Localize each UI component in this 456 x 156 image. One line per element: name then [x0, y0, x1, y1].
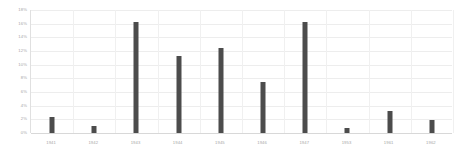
- x-axis-tick-label: 1946: [257, 141, 267, 145]
- bar[interactable]: [261, 82, 266, 133]
- x-axis-tick-label: 1945: [215, 141, 225, 145]
- y-axis-tick-label: 14%: [18, 35, 27, 39]
- bar[interactable]: [303, 22, 308, 133]
- x-axis-tick-label: 1947: [299, 141, 309, 145]
- bar-slot: [31, 10, 73, 133]
- bar-slot: [411, 10, 453, 133]
- x-axis-tick-label: 1953: [342, 141, 352, 145]
- y-axis-tick-label: 10%: [18, 63, 27, 67]
- x-axis-tick-label: 1941: [46, 141, 56, 145]
- y-axis-tick-label: 12%: [18, 49, 27, 53]
- bar[interactable]: [429, 120, 434, 133]
- y-axis-tick-label: 0%: [21, 131, 27, 135]
- bar[interactable]: [92, 126, 97, 133]
- bar-chart: 0%2%4%6%8%10%12%14%16%18% 19411942194319…: [0, 0, 456, 156]
- bar[interactable]: [218, 48, 223, 133]
- x-axis-tick-label: 1942: [88, 141, 98, 145]
- bar-slot: [369, 10, 411, 133]
- bar-slot: [326, 10, 368, 133]
- x-axis-tick-label: 1961: [384, 141, 394, 145]
- y-axis-tick-label: 2%: [21, 117, 27, 121]
- bar-slot: [242, 10, 284, 133]
- bar[interactable]: [176, 56, 181, 133]
- bar[interactable]: [387, 111, 392, 133]
- bar-slot: [158, 10, 200, 133]
- bars: [31, 10, 452, 133]
- y-axis-tick-label: 4%: [21, 104, 27, 108]
- y-axis-tick-label: 8%: [21, 76, 27, 80]
- bar-slot: [73, 10, 115, 133]
- x-axis-tick-label: 1943: [131, 141, 141, 145]
- plot-area: [30, 10, 452, 133]
- bar-slot: [200, 10, 242, 133]
- x-axis-tick-label: 1962: [426, 141, 436, 145]
- bar-slot: [284, 10, 326, 133]
- y-axis-tick-label: 18%: [18, 8, 27, 12]
- bar-slot: [115, 10, 157, 133]
- y-axis-tick-label: 6%: [21, 90, 27, 94]
- y-axis: 0%2%4%6%8%10%12%14%16%18%: [0, 0, 30, 156]
- x-axis: 1941194219431944194519461947195319611962: [30, 133, 452, 156]
- bar[interactable]: [50, 117, 55, 133]
- bar[interactable]: [134, 22, 139, 133]
- y-axis-tick-label: 16%: [18, 22, 27, 26]
- vertical-gridline: [453, 10, 454, 133]
- x-axis-tick-label: 1944: [173, 141, 183, 145]
